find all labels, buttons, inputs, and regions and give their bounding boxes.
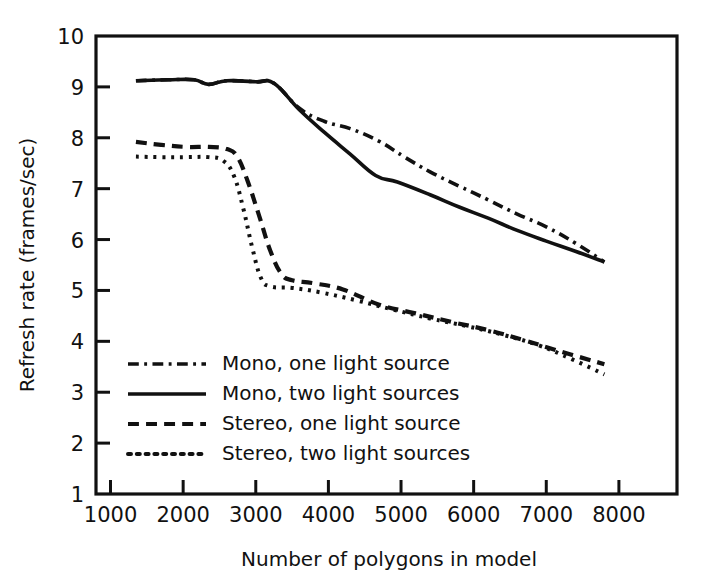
x-tick-label-7000: 7000 (520, 503, 573, 527)
x-tick-label-2000: 2000 (156, 503, 209, 527)
y-tick-label-3: 3 (71, 381, 84, 405)
x-axis-label: Number of polygons in model (241, 547, 537, 571)
y-tick-label-5: 5 (71, 279, 84, 303)
legend-label-0: Mono, one light source (222, 351, 450, 375)
refresh-rate-line-chart: 10002000300040005000600070008000 1234567… (0, 0, 712, 584)
y-tick-label-2: 2 (71, 432, 84, 456)
legend-label-3: Stereo, two light sources (222, 441, 470, 465)
y-axis-label: Refresh rate (frames/sec) (15, 138, 39, 393)
chart-page: 10002000300040005000600070008000 1234567… (0, 0, 712, 584)
x-tick-label-6000: 6000 (447, 503, 500, 527)
legend-label-1: Mono, two light sources (222, 381, 459, 405)
y-tick-label-6: 6 (71, 229, 84, 253)
x-tick-label-4000: 4000 (302, 503, 355, 527)
y-tick-label-1: 1 (71, 483, 84, 507)
x-tick-label-5000: 5000 (374, 503, 427, 527)
x-tick-label-3000: 3000 (229, 503, 282, 527)
legend-label-2: Stereo, one light source (222, 411, 461, 435)
y-tick-label-9: 9 (71, 76, 84, 100)
y-tick-label-8: 8 (71, 127, 84, 151)
y-tick-label-10: 10 (57, 25, 84, 49)
x-tick-label-8000: 8000 (592, 503, 645, 527)
x-tick-label-1000: 1000 (84, 503, 137, 527)
y-tick-label-4: 4 (71, 330, 84, 354)
y-tick-label-7: 7 (71, 178, 84, 202)
